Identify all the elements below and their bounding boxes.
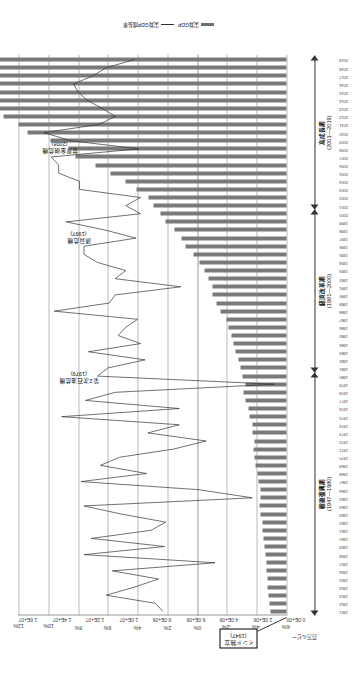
- annotation-global-financial-crisis: 世界金融危機(2008): [41, 140, 77, 153]
- chart-legend: 実質GDP実質GDP成長率: [122, 22, 214, 29]
- value-tick-1.2E+07: 1.2E+07: [85, 616, 104, 622]
- era-arrow-r-growth: [310, 55, 318, 60]
- legend-swatch-bar: [201, 22, 214, 25]
- annotation-title: 第2次石油危機: [59, 376, 98, 383]
- growth-rate-polyline: [43, 59, 274, 611]
- callout-india-independence: インド独立(1947): [219, 628, 257, 648]
- era-arrow-l-postwar: [310, 610, 318, 615]
- era-arrow-r-postwar: [310, 372, 318, 377]
- value-tick-0.0E+00: 0.0E+00: [286, 616, 305, 622]
- value-tick-1.4E+07: 1.4E+07: [52, 616, 71, 622]
- era-label-growth: 高成長期(2001—2019): [318, 55, 332, 209]
- era-arrow-l-reform: [310, 367, 318, 372]
- era-label-reform: 経済改革期(1981—2000): [318, 209, 332, 371]
- era-line-reform: [314, 209, 315, 371]
- era-brackets: 戦後復興期(1947—1980)経済改革期(1981—2000)高成長期(200…: [300, 55, 356, 615]
- era-line-postwar: [314, 372, 315, 615]
- annotation-title: 通貨危機: [66, 236, 90, 243]
- figure-canvas: -6%-4%-2%0%2%4%6%8%10%12% 0.0E+002.0E+06…: [0, 0, 362, 675]
- era-arrow-l-growth: [310, 204, 318, 209]
- annotation-year: (2008): [41, 140, 77, 147]
- value-tick-1.6E+07: 1.6E+07: [18, 616, 37, 622]
- value-tick-2.0E+06: 2.0E+06: [253, 616, 272, 622]
- era-name: 経済改革期: [318, 275, 324, 305]
- annotation-second-oil-crisis: 第2次石油危機(1979): [59, 369, 98, 382]
- plot-area: 第2次石油危機(1979) 通貨危機(1997) 世界金融危機(2008): [18, 55, 286, 615]
- era-range: (2001—2019): [325, 55, 332, 209]
- callout-title: インド独立: [223, 638, 253, 645]
- annotation-title: 世界金融危機: [41, 146, 77, 153]
- era-name: 戦後復興期: [318, 478, 324, 508]
- rotated-figure: -6%-4%-2%0%2%4%6%8%10%12% 0.0E+002.0E+06…: [0, 0, 362, 675]
- annotation-currency-crisis: 通貨危機(1997): [66, 229, 90, 242]
- value-tick-4.0E+06: 4.0E+06: [219, 616, 238, 622]
- legend-label-gdp: 実質GDP: [177, 22, 198, 28]
- value-tick-1.0E+07: 1.0E+07: [119, 616, 138, 622]
- era-range: (1981—2000): [325, 209, 332, 371]
- value-tick-6.0E+06: 6.0E+06: [186, 616, 205, 622]
- callout-year: (1947): [223, 631, 253, 638]
- legend-swatch-line: [160, 23, 173, 24]
- value-tick-8.0E+06: 8.0E+06: [152, 616, 171, 622]
- value-axis-title: 百万ルピー: [291, 633, 316, 640]
- growth-rate-line: [18, 55, 286, 615]
- era-line-growth: [314, 55, 315, 209]
- era-name: 高成長期: [318, 120, 324, 144]
- era-arrow-r-reform: [310, 209, 318, 214]
- annotation-year: (1979): [59, 369, 98, 376]
- era-range: (1947—1980): [325, 372, 332, 615]
- legend-label-growth: 実質GDP成長率: [122, 22, 158, 28]
- annotation-year: (1997): [66, 229, 90, 236]
- chart-page: -6%-4%-2%0%2%4%6%8%10%12% 0.0E+002.0E+06…: [0, 0, 362, 675]
- era-label-postwar: 戦後復興期(1947—1980): [318, 372, 332, 615]
